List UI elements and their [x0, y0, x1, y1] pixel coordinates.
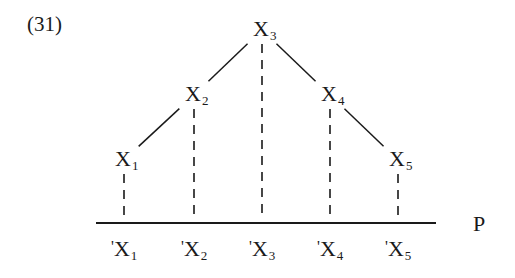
projection-subscript: 1 — [131, 248, 138, 263]
tree-node-x3: X3 — [253, 18, 276, 42]
example-number: (31) — [27, 14, 62, 35]
tree-node-x1: X1 — [115, 148, 138, 172]
projection-symbol: X — [252, 236, 268, 261]
projection-symbol: X — [184, 236, 200, 261]
node-symbol: X — [115, 146, 131, 171]
tree-node-x5: X5 — [389, 148, 412, 172]
projection-subscript: 3 — [269, 248, 276, 263]
node-symbol: X — [185, 81, 201, 106]
projection-label-x5: 'X5 — [385, 238, 411, 262]
projection-line-label: P — [473, 213, 485, 235]
node-symbol: X — [389, 146, 405, 171]
projection-label-x4: 'X4 — [317, 238, 343, 262]
node-subscript: 5 — [406, 158, 413, 173]
projection-label-x2: 'X2 — [181, 238, 207, 262]
node-subscript: 1 — [132, 158, 139, 173]
projection-subscript: 2 — [201, 248, 208, 263]
projection-symbol: X — [114, 236, 130, 261]
projection-symbol: X — [320, 236, 336, 261]
diagram-canvas: (31) P X3X2X4X1X5 'X1'X2'X3'X4'X5 — [0, 0, 515, 278]
node-subscript: 3 — [270, 28, 277, 43]
tree-edge-x2-x1 — [139, 109, 180, 147]
tree-edge-x3-x2 — [208, 44, 247, 81]
node-subscript: 4 — [338, 93, 345, 108]
projection-label-x3: 'X3 — [249, 238, 275, 262]
projection-label-x1: 'X1 — [111, 238, 137, 262]
tree-node-x2: X2 — [185, 83, 208, 107]
node-symbol: X — [253, 16, 269, 41]
tree-edge-x4-x5 — [344, 109, 383, 146]
projection-symbol: X — [388, 236, 404, 261]
node-symbol: X — [321, 81, 337, 106]
tree-node-x4: X4 — [321, 83, 344, 107]
projection-subscript: 4 — [337, 248, 344, 263]
tree-edge-x3-x4 — [276, 44, 315, 81]
projection-subscript: 5 — [405, 248, 412, 263]
node-subscript: 2 — [202, 93, 209, 108]
